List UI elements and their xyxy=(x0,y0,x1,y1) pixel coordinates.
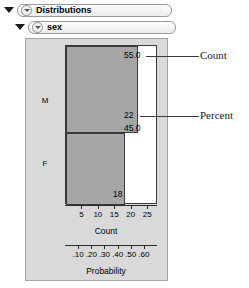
count-axis-line xyxy=(65,205,157,206)
axis-tick xyxy=(104,245,105,249)
axis-tick xyxy=(81,205,82,209)
outliner-header-sex[interactable]: sex xyxy=(15,20,176,34)
axis-tick xyxy=(114,205,115,209)
value-label-m-percent: 55.0 xyxy=(124,51,141,60)
axis-tick xyxy=(147,205,148,209)
sex-title-plate[interactable]: sex xyxy=(28,21,176,34)
axis-tick xyxy=(144,245,145,249)
leader-line-count xyxy=(146,56,199,57)
axis-tick xyxy=(98,205,99,209)
category-label-f: F xyxy=(38,159,52,168)
axis-tick xyxy=(78,245,79,249)
outliner-header-distributions[interactable]: Distributions xyxy=(4,3,172,17)
value-label-f-count: 18 xyxy=(113,190,122,199)
context-menu-triangle-icon[interactable] xyxy=(32,22,43,33)
category-label-m: M xyxy=(38,96,52,105)
value-label-m-count: 22 xyxy=(124,111,133,120)
leader-line-percent xyxy=(140,116,199,117)
distributions-title-plate[interactable]: Distributions xyxy=(17,4,172,17)
triangle-down-icon[interactable] xyxy=(15,24,25,30)
axis-tick-label: 25 xyxy=(137,210,157,219)
divided-bar-plot xyxy=(65,45,157,204)
axis-tick xyxy=(131,205,132,209)
count-axis-title: Count xyxy=(56,226,156,236)
sex-title: sex xyxy=(47,22,62,33)
distributions-title: Distributions xyxy=(36,5,92,16)
axis-tick xyxy=(118,245,119,249)
probability-axis-title: Probability xyxy=(56,266,156,276)
axis-tick-label: .60 xyxy=(134,250,154,259)
axis-tick xyxy=(131,245,132,249)
annotation-percent: Percent xyxy=(200,109,233,121)
axis-tick xyxy=(91,245,92,249)
annotation-count: Count xyxy=(200,49,227,61)
triangle-down-icon[interactable] xyxy=(4,7,14,13)
value-label-f-percent: 45.0 xyxy=(124,124,141,133)
context-menu-triangle-icon[interactable] xyxy=(21,5,32,16)
